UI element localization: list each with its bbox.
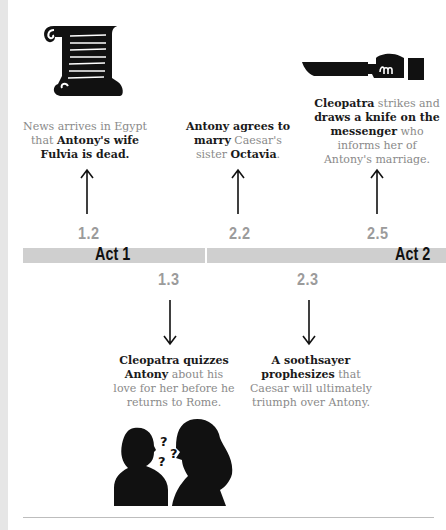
scroll-icon	[40, 20, 125, 100]
caption-text: strikes and	[374, 97, 439, 110]
arrow-down-icon	[302, 298, 316, 346]
conversation-icon: ? ? ?	[110, 418, 245, 506]
arrow-up-icon	[80, 168, 94, 216]
event-caption-2-2: Antony agrees to marry Caesar's sister O…	[182, 120, 294, 162]
scene-number: 2.3	[297, 270, 318, 290]
event-caption-1-3: Cleopatra quizzes Antony about his love …	[112, 354, 236, 410]
event-caption-2-5: Cleopatra strikes and draws a knife on t…	[313, 97, 441, 167]
svg-text:?: ?	[170, 446, 178, 461]
event-caption-1-2: News arrives in Egypt that Antony's wife…	[22, 120, 148, 162]
caption-text: .	[277, 148, 281, 161]
arrow-up-icon	[231, 168, 245, 216]
scene-number: 2.2	[229, 224, 250, 244]
caption-highlight: Cleopatra	[314, 97, 374, 110]
svg-text:?: ?	[158, 454, 166, 469]
arrow-down-icon	[163, 298, 177, 346]
arrow-up-icon	[370, 168, 384, 216]
event-caption-2-3: A soothsayer prophesizes that Caesar wil…	[246, 354, 376, 410]
caption-highlight: Octavia	[230, 148, 276, 161]
knife-icon	[300, 52, 425, 82]
page-edge-strip	[0, 0, 8, 530]
act-2-label: Act 2	[395, 244, 430, 265]
scene-number: 2.5	[367, 224, 388, 244]
bottom-divider	[23, 517, 434, 518]
svg-text:?: ?	[160, 434, 168, 449]
act-1-label: Act 1	[95, 244, 130, 265]
scene-number: 1.2	[78, 224, 99, 244]
scene-number: 1.3	[158, 270, 179, 290]
